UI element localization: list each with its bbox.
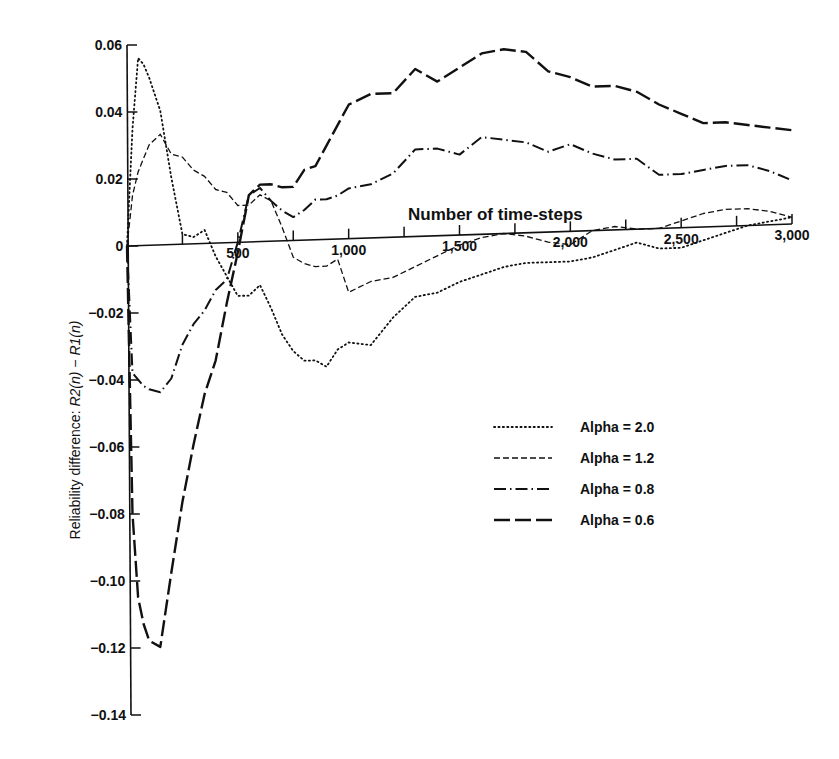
y-axis-title: Reliability difference: R2(n) − R1(n) [67, 321, 83, 540]
y-tick-label: −0.08 [89, 506, 125, 522]
x-axis-title: Number of time-steps [408, 205, 583, 224]
y-tick-label: −0.12 [90, 640, 126, 656]
x-tick-label: 3,000 [774, 227, 809, 243]
y-tick-label: −0.02 [88, 305, 124, 321]
y-tick-label: −0.10 [90, 573, 126, 589]
series-layer [127, 49, 792, 647]
y-axis-title-expr: R2(n) − R1(n) [67, 321, 83, 407]
y-tick-label: −0.04 [89, 372, 125, 388]
x-tick-label: 2,500 [664, 231, 699, 247]
legend-label: Alpha = 0.8 [580, 481, 655, 497]
y-tick-label: 0.04 [95, 104, 122, 120]
legend-label: Alpha = 0.6 [580, 512, 655, 528]
y-tick-label: 0 [115, 238, 123, 254]
legend: Alpha = 2.0Alpha = 1.2Alpha = 0.8Alpha =… [494, 419, 655, 528]
y-tick-label: 0.06 [95, 37, 122, 53]
series-dashed-long [127, 49, 792, 647]
legend-label: Alpha = 2.0 [580, 419, 655, 435]
y-tick-label: 0.02 [96, 171, 123, 187]
series-dash-dot [127, 137, 792, 392]
y-axis-title-prefix: Reliability difference: [67, 407, 83, 540]
y-tick-label: −0.06 [89, 439, 125, 455]
x-tick-label: 1,500 [442, 238, 477, 254]
x-tick-label: 1,000 [331, 242, 366, 258]
line-chart: 0.060.040.020−0.02−0.04−0.06−0.08−0.10−0… [0, 0, 839, 759]
y-tick-label: −0.14 [91, 707, 127, 723]
y-axis: 0.060.040.020−0.02−0.04−0.06−0.08−0.10−0… [88, 37, 141, 723]
legend-label: Alpha = 1.2 [580, 450, 655, 466]
